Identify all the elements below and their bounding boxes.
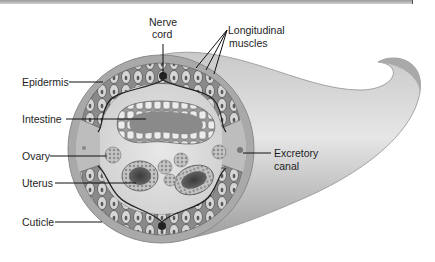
label-cuticle: Cuticle (22, 216, 54, 228)
ventral-nerve-cord (158, 222, 166, 230)
label-ovary: Ovary (22, 150, 50, 162)
ovary-4 (174, 153, 188, 167)
ovary-2 (212, 145, 226, 159)
label-nerve-cord-line2: cord (152, 28, 172, 40)
ovary-1 (105, 147, 121, 163)
excretory-canal-right (237, 147, 243, 153)
ovary-5 (164, 174, 176, 186)
label-intestine: Intestine (22, 113, 62, 125)
label-excretory-canal-line1: Excretory (274, 147, 318, 159)
roundworm-illustration (0, 0, 435, 262)
excretory-canal-left (82, 146, 86, 150)
label-nerve-cord-line1: Nerve (149, 16, 177, 28)
label-longitudinal-muscles-line1: Longitudinal (228, 24, 285, 36)
label-excretory-canal-line2: canal (274, 160, 299, 172)
label-longitudinal-muscles-line2: muscles (229, 37, 268, 49)
label-uterus: Uterus (22, 177, 53, 189)
ovary-3 (158, 160, 172, 174)
label-epidermis: Epidermis (22, 76, 69, 88)
